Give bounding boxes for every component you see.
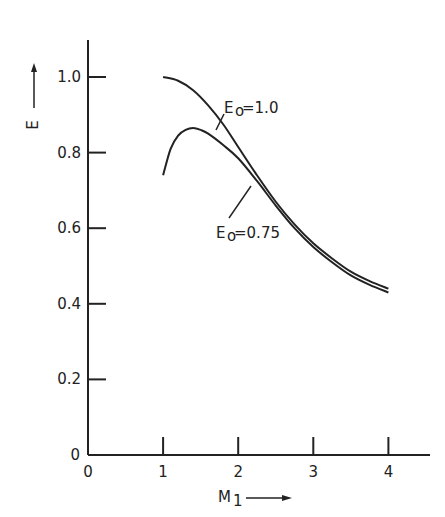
y-tick-label: 0.8 — [57, 144, 81, 162]
svg-text:E: E — [224, 99, 233, 117]
y-tick-label: 1.0 — [57, 68, 81, 86]
y-tick-label: 0 — [70, 446, 80, 464]
curve-e0-0.75 — [163, 128, 388, 292]
x-label-subscript: 1 — [233, 492, 243, 510]
y-tick-label: 0.6 — [57, 219, 81, 237]
y-tick-label: 0.2 — [57, 370, 81, 388]
chart: 00.20.40.60.81.0 01234 E M 1 E o =1.0 E … — [0, 0, 445, 517]
annotation-e0-1.0: E o =1.0 — [216, 99, 278, 130]
y-ticks: 00.20.40.60.81.0 — [57, 68, 106, 464]
x-tick-label: 1 — [158, 463, 168, 481]
svg-text:E: E — [216, 224, 225, 242]
x-tick-label: 3 — [309, 463, 319, 481]
svg-text:=1.0: =1.0 — [242, 99, 278, 117]
x-tick-label: 4 — [384, 463, 394, 481]
y-label-text: E — [24, 120, 42, 129]
x-ticks: 01234 — [83, 437, 393, 481]
y-axis-label: E — [24, 63, 42, 130]
x-axis-label: M 1 — [218, 488, 292, 510]
y-tick-label: 0.4 — [57, 295, 81, 313]
x-label-text: M — [218, 488, 231, 506]
x-tick-label: 2 — [233, 463, 243, 481]
svg-text:=0.75: =0.75 — [234, 224, 280, 242]
x-tick-label: 0 — [83, 463, 93, 481]
